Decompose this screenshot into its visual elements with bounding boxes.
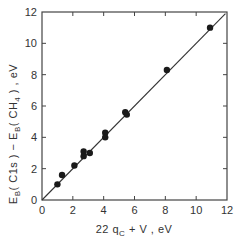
data-point: [87, 150, 93, 156]
data-point: [80, 153, 86, 159]
data-point: [124, 111, 130, 117]
data-point: [59, 172, 65, 178]
x-tick-label: 6: [131, 204, 137, 216]
y-tick-label: 6: [31, 100, 37, 112]
x-tick-label: 0: [39, 204, 45, 216]
y-tick-label: 4: [31, 131, 37, 143]
y-axis-label: EB( C1s ) − EB( CH4 ) , eV: [7, 64, 22, 204]
data-point: [54, 181, 60, 187]
x-tick-label: 10: [190, 204, 202, 216]
fit-line: [42, 14, 225, 200]
scatter-chart: 024681012024681012 22 qC + V , eV EB( C1…: [0, 0, 242, 243]
y-tick-label: 12: [25, 6, 37, 18]
x-tick-label: 2: [70, 204, 76, 216]
data-point: [102, 134, 108, 140]
y-tick-label: 8: [31, 69, 37, 81]
x-tick-label: 4: [101, 204, 107, 216]
data-point: [207, 24, 213, 30]
x-tick-label: 8: [162, 204, 168, 216]
x-axis-label: 22 qC + V , eV: [96, 223, 173, 238]
x-tick-label: 12: [221, 204, 233, 216]
data-point: [71, 162, 77, 168]
y-tick-label: 0: [31, 194, 37, 206]
data-point: [164, 67, 170, 73]
y-tick-label: 10: [25, 37, 37, 49]
y-tick-label: 2: [31, 163, 37, 175]
